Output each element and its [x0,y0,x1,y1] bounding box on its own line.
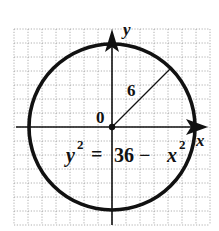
y-axis-label: y [121,20,131,39]
radius-line [112,69,170,127]
radius-label: 6 [127,81,136,100]
origin-point [109,124,115,130]
equation-lhs: y [64,144,75,167]
equation-rhs-exponent: 2 [179,137,186,152]
circle-diagram: y x 0 6 y 2 = 36 − x 2 [0,0,219,231]
equation-rhs-constant: 36 − [114,144,150,166]
equation: y 2 = 36 − x 2 [64,137,186,167]
x-axis-label: x [195,131,205,150]
origin-label: 0 [96,108,105,127]
equation-equals: = [91,143,102,165]
equation-rhs-variable: x [166,144,177,166]
equation-lhs-exponent: 2 [77,137,84,152]
